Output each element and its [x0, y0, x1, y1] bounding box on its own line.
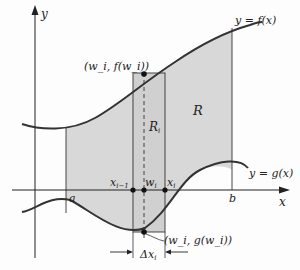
y-axis-arrow-icon	[32, 5, 39, 15]
x-axis-label: x	[279, 195, 286, 209]
label-top-point: (w_i, f(w_i))	[84, 60, 149, 73]
x-axis-arrow-icon	[279, 187, 290, 194]
label-delta-x: Δxi	[139, 248, 156, 262]
f-curve-label: y = f(x)	[234, 14, 276, 27]
area-between-curves-diagram: y x y = f(x) y = g(x) a b xi−1 wi xi R R…	[0, 0, 300, 270]
y-axis-label: y	[40, 7, 48, 21]
label-bottom-point: (w_i, g(w_i))	[164, 234, 232, 247]
arrow-right-icon	[127, 250, 133, 255]
label-b: b	[229, 192, 236, 205]
point-g-wi	[141, 229, 147, 235]
label-R: R	[192, 103, 203, 118]
label-a: a	[69, 192, 76, 205]
point-x-prev	[130, 187, 135, 192]
leader-g-wi	[146, 234, 164, 241]
rectangle-Ri	[133, 73, 165, 232]
g-curve-label: y = g(x)	[248, 167, 293, 180]
arrow-left-icon	[165, 250, 171, 255]
